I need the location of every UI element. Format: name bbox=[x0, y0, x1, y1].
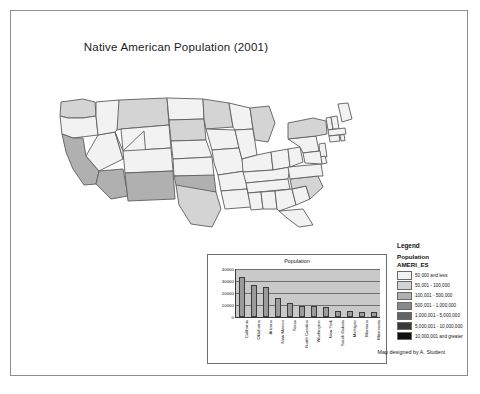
chart-bar bbox=[323, 307, 330, 317]
state-alabama bbox=[261, 191, 277, 209]
legend-item-label: 5,000,001 - 10,000,000 bbox=[415, 324, 463, 329]
state-oregon bbox=[60, 116, 98, 138]
x-axis-tick-label: California bbox=[244, 320, 249, 338]
x-axis-tick-label: New Mexico bbox=[280, 320, 285, 343]
legend-class-list: 50,000 and less50,001 - 100,000100,001 -… bbox=[397, 271, 477, 340]
state-connecticut bbox=[329, 135, 340, 142]
chart-bar bbox=[275, 298, 282, 317]
legend-item: 100,001 - 500,000 bbox=[397, 292, 477, 301]
x-axis-tick-label: Arizona bbox=[268, 320, 273, 335]
state-kansas bbox=[173, 157, 214, 176]
state-arkansas bbox=[218, 171, 247, 191]
state-minnesota bbox=[203, 99, 233, 129]
state-arizona bbox=[96, 169, 128, 199]
legend-swatch bbox=[397, 322, 412, 331]
legend-subheading: Population bbox=[397, 253, 477, 261]
x-axis-tick-label: New York bbox=[328, 320, 333, 338]
x-axis-tick-label: Montana bbox=[364, 320, 369, 337]
legend-swatch bbox=[397, 302, 412, 311]
x-axis-tick-label: Oklahoma bbox=[256, 320, 261, 340]
x-axis-tick-label: Washington bbox=[316, 320, 321, 343]
y-axis-tick-label: 30000 bbox=[222, 279, 234, 284]
legend-swatch bbox=[397, 271, 412, 280]
chart-plot-area: 010000200003000040000 CaliforniaOklahoma… bbox=[235, 269, 380, 318]
x-axis-tick-label: North Carolina bbox=[304, 320, 309, 348]
x-axis-tick-label: Minnesota bbox=[376, 320, 381, 340]
legend-field-name: AMERI_ES bbox=[397, 261, 477, 269]
state-south-dakota bbox=[169, 119, 206, 141]
legend-swatch bbox=[397, 292, 412, 301]
state-louisiana bbox=[221, 189, 251, 209]
y-axis-tick-label: 10000 bbox=[222, 303, 234, 308]
legend-item: 50,000 and less bbox=[397, 271, 477, 280]
gridline bbox=[236, 305, 380, 306]
legend-item: 1,000,001 - 5,000,000 bbox=[397, 312, 477, 321]
chart-bar bbox=[263, 287, 270, 317]
legend-item-label: 10,000,001 and greater bbox=[415, 334, 463, 339]
state-colorado bbox=[123, 148, 173, 173]
state-ohio bbox=[271, 149, 290, 170]
legend-heading: Legend bbox=[397, 242, 477, 249]
legend-item-label: 1,000,001 - 5,000,000 bbox=[415, 313, 460, 318]
chart-bar bbox=[335, 311, 342, 317]
state-washington bbox=[60, 99, 96, 118]
y-axis-tick-label: 0 bbox=[232, 315, 234, 320]
chart-bar bbox=[371, 312, 378, 317]
gridline bbox=[236, 281, 380, 282]
gridline bbox=[236, 269, 380, 270]
state-west-virginia bbox=[288, 147, 303, 167]
inset-population-chart: Population 010000200003000040000 Califor… bbox=[207, 254, 387, 364]
x-axis-tick-label: Texas bbox=[292, 320, 297, 331]
state-new-mexico bbox=[125, 171, 175, 201]
legend-item: 50,001 - 100,000 bbox=[397, 281, 477, 290]
y-axis-tick-label: 20000 bbox=[222, 291, 234, 296]
state-mississippi bbox=[248, 192, 263, 210]
chart-bar bbox=[299, 306, 306, 317]
state-new-york bbox=[288, 118, 327, 139]
state-wisconsin bbox=[229, 103, 253, 130]
state-nebraska bbox=[171, 140, 212, 159]
state-maryland bbox=[303, 151, 322, 164]
chart-bar bbox=[311, 306, 318, 317]
x-axis-tick-label: Michigan bbox=[352, 320, 357, 337]
legend-swatch bbox=[397, 332, 412, 341]
page-title: Native American Population (2001) bbox=[11, 41, 341, 53]
legend-item-label: 500,001 - 1,000,000 bbox=[415, 303, 456, 308]
chart-bar bbox=[347, 311, 354, 317]
x-axis-tick-label: South Dakota bbox=[340, 320, 345, 346]
chart-bar bbox=[287, 303, 294, 317]
chart-bar bbox=[239, 277, 246, 317]
state-north-dakota bbox=[167, 98, 204, 120]
map-poster: Native American Population (2001) Legend… bbox=[10, 10, 468, 376]
chart-bar bbox=[359, 312, 366, 317]
chart-title: Population bbox=[208, 258, 386, 264]
state-florida bbox=[279, 209, 313, 227]
legend-item-label: 50,001 - 100,000 bbox=[415, 283, 450, 288]
credit-text: Map designed by A. Student bbox=[378, 349, 445, 355]
legend-item: 5,000,001 - 10,000,000 bbox=[397, 322, 477, 331]
legend: Legend Population AMERI_ES 50,000 and le… bbox=[397, 242, 477, 340]
us-choropleth-map bbox=[53, 96, 363, 231]
state-texas bbox=[176, 185, 221, 227]
state-iowa bbox=[206, 129, 239, 150]
legend-item: 500,001 - 1,000,000 bbox=[397, 302, 477, 311]
legend-swatch bbox=[397, 281, 412, 290]
legend-item-label: 100,001 - 500,000 bbox=[415, 293, 452, 298]
legend-item-label: 50,000 and less bbox=[415, 273, 447, 278]
legend-swatch bbox=[397, 312, 412, 321]
gridline bbox=[236, 293, 380, 294]
state-maine bbox=[338, 103, 352, 122]
state-rhode-island bbox=[340, 135, 345, 142]
chart-bar bbox=[251, 285, 258, 317]
legend-item: 10,000,001 and greater bbox=[397, 332, 477, 341]
y-axis-tick-label: 40000 bbox=[222, 267, 234, 272]
